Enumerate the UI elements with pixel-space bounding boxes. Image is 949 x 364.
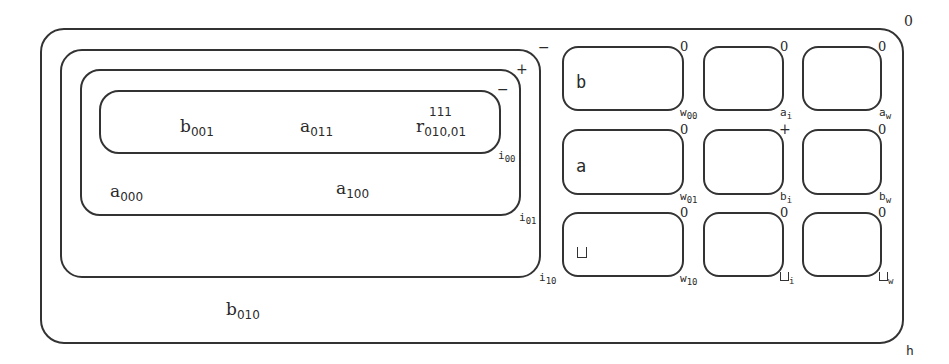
- i01-label: i01: [519, 212, 536, 226]
- cell-blank-w-label: w: [879, 272, 893, 286]
- cell-aw: [802, 46, 882, 111]
- blank-symbol-icon: [577, 247, 587, 258]
- cell-bw-label: bw: [879, 191, 891, 205]
- cell-blank-i: [703, 212, 784, 277]
- i01-corner-mark: +: [516, 62, 528, 76]
- cell-bi: [703, 129, 784, 195]
- term-b010: b010: [226, 301, 260, 321]
- cell-w10-content-blank-symbol: [577, 245, 587, 261]
- term-r: r111010,01: [416, 118, 466, 138]
- cell-aw-corner: 0: [878, 40, 886, 53]
- cell-aw-label: aw: [879, 107, 891, 121]
- i10-corner-mark: −: [538, 40, 550, 54]
- cell-bi-label: bi: [780, 191, 792, 205]
- term-b001: b001: [180, 118, 214, 138]
- cell-ai-corner: 0: [780, 40, 788, 53]
- cell-bw-corner: 0: [878, 123, 886, 136]
- cell-w00-content: b: [576, 74, 586, 91]
- cell-w10-label: w10: [680, 273, 697, 287]
- cell-bw: [802, 129, 882, 195]
- cell-ai-label: ai: [780, 107, 792, 121]
- cell-w01-content: a: [576, 158, 586, 175]
- i10-label: i10: [539, 272, 556, 286]
- outer-corner-mark: 0: [904, 14, 913, 28]
- cell-w01-corner: 0: [680, 123, 688, 136]
- outer-box-label: h: [906, 344, 914, 357]
- i00-corner-mark: −: [497, 82, 509, 96]
- term-a100: a100: [336, 180, 369, 200]
- term-a011: a011: [300, 118, 333, 138]
- cell-blank-w-corner: 0: [878, 206, 886, 219]
- cell-blank-i-label: i: [780, 272, 794, 286]
- cell-blank-w: [802, 212, 882, 277]
- cell-w10-corner: 0: [680, 206, 688, 219]
- i00-label: i00: [498, 150, 515, 164]
- cell-ai: [703, 46, 784, 111]
- term-a000: a000: [110, 183, 143, 203]
- blank-symbol-icon: [879, 272, 888, 281]
- cell-blank-i-corner: 0: [780, 206, 788, 219]
- cell-bi-corner: +: [779, 122, 791, 136]
- cell-w00-label: w00: [680, 107, 697, 121]
- blank-symbol-icon: [780, 272, 789, 281]
- cell-w01-label: w01: [680, 191, 697, 205]
- cell-w00-corner: 0: [680, 40, 688, 53]
